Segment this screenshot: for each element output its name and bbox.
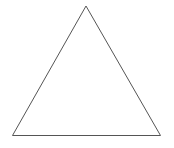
diagram-canvas [0, 0, 174, 148]
diagram-svg [0, 0, 174, 148]
triangle-shape [13, 6, 161, 136]
